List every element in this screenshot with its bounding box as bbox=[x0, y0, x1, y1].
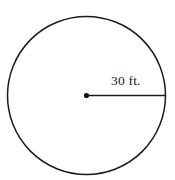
circle-diagram-svg bbox=[0, 0, 175, 180]
center-point-dot bbox=[84, 93, 89, 98]
geometry-figure: 30 ft. bbox=[0, 0, 175, 180]
radius-measurement-label: 30 ft. bbox=[111, 74, 141, 88]
